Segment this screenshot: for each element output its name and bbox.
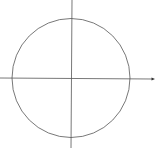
- circle-diagram: [0, 0, 156, 148]
- x-axis-arrow-icon: [152, 78, 156, 81]
- y-axis: [71, 0, 72, 148]
